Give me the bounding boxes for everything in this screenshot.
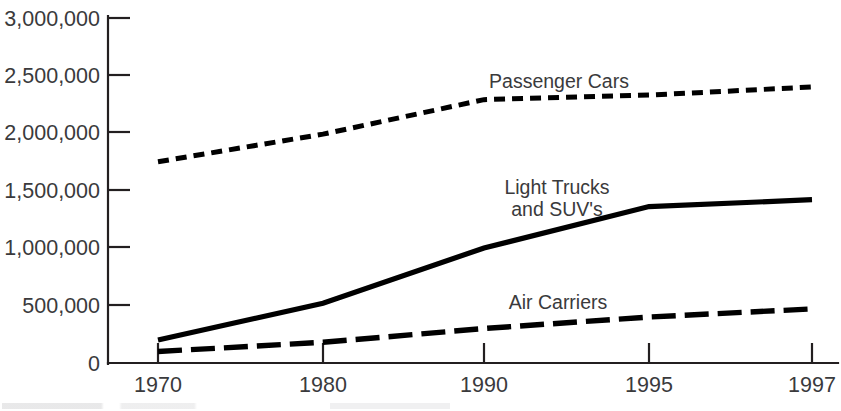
series-label-air-carriers: Air Carriers [509,291,608,313]
x-tick-label-1980: 1980 [299,373,347,397]
y-tick-label-1000000: 1,000,000 [4,236,100,260]
y-tick-label-3000000: 3,000,000 [4,7,100,31]
x-tick-label-1995: 1995 [625,373,673,397]
series-label-light-trucks-line2: and SUV's [511,198,603,220]
series-label-passenger-cars: Passenger Cars [489,70,629,92]
series-label-light-trucks-line1: Light Trucks [504,176,609,198]
y-tick-label-500000: 500,000 [22,294,100,318]
y-tick-label-1500000: 1,500,000 [4,179,100,203]
y-tick-label-2500000: 2,500,000 [4,64,100,88]
y-axis-tick-labels: 3,000,000 2,500,000 2,000,000 1,500,000 … [4,7,100,376]
series-line-light-trucks-and-suvs [158,200,812,340]
y-tick-marks [108,18,130,305]
scan-artifact-left [2,403,302,409]
line-chart: 3,000,000 2,500,000 2,000,000 1,500,000 … [0,0,841,411]
x-tick-label-1990: 1990 [460,373,508,397]
x-tick-marks [158,343,812,363]
x-tick-label-1997: 1997 [788,373,836,397]
x-axis-tick-labels: 1970 1980 1990 1995 1997 [134,373,836,397]
series-line-passenger-cars [158,87,812,162]
x-tick-label-1970: 1970 [134,373,182,397]
scan-artifact-right [330,403,450,409]
y-tick-label-0: 0 [88,352,100,376]
chart-canvas: 3,000,000 2,500,000 2,000,000 1,500,000 … [0,0,841,411]
y-tick-label-2000000: 2,000,000 [4,121,100,145]
